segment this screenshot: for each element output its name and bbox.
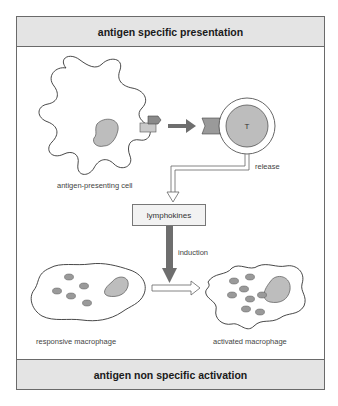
lymphokines-box: lymphokines xyxy=(132,204,206,226)
activation-arrow-icon xyxy=(152,281,200,295)
presentation-arrow-icon xyxy=(168,119,196,133)
t-cell-icon: T xyxy=(219,98,275,154)
activated-macrophage-label: activated macrophage xyxy=(213,337,287,346)
release-label: release xyxy=(255,162,280,171)
induction-arrow-icon xyxy=(162,226,177,283)
t-cell-receptor-icon xyxy=(202,118,220,134)
svg-text:T: T xyxy=(245,122,250,131)
responsive-macrophage-icon xyxy=(31,263,145,320)
apc-label: antigen-presenting cell xyxy=(57,181,132,190)
antigen-icon xyxy=(140,116,161,132)
antigen-presenting-cell-icon xyxy=(39,56,150,174)
induction-label: induction xyxy=(178,248,208,257)
release-arrow-icon xyxy=(167,154,249,202)
lymphokines-label: lymphokines xyxy=(147,211,191,220)
responsive-macrophage-label: responsive macrophage xyxy=(36,337,116,346)
activated-macrophage-icon xyxy=(206,265,305,329)
